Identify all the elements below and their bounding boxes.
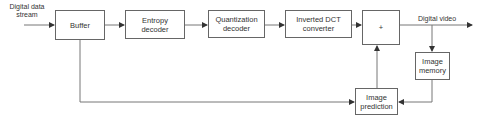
memory-label-line2: memory — [419, 66, 446, 75]
quant-label-line2: decoder — [215, 24, 257, 33]
input-label: Digital data stream — [4, 3, 50, 19]
entropy-label-line2: decoder — [141, 25, 168, 34]
buffer-label: Buffer — [70, 21, 90, 30]
memory-label-line1: Image — [419, 57, 446, 66]
prediction-label-line1: Image — [360, 93, 393, 102]
output-label: Digital video — [418, 15, 456, 23]
idct-label-line2: converter — [296, 24, 341, 33]
input-label-line2: stream — [4, 11, 50, 19]
prediction-label-line2: prediction — [360, 102, 393, 111]
input-label-line1: Digital data — [4, 3, 50, 11]
inverted-dct-block: Inverted DCT converter — [285, 10, 352, 38]
buffer-block: Buffer — [55, 10, 105, 40]
quant-label-line1: Quantization — [215, 15, 257, 24]
entropy-decoder-block: Entropy decoder — [125, 10, 185, 39]
adder-label: + — [379, 23, 383, 32]
idct-label-line1: Inverted DCT — [296, 15, 341, 24]
quantization-decoder-block: Quantization decoder — [208, 10, 265, 38]
image-memory-block: Image memory — [415, 52, 450, 80]
entropy-label-line1: Entropy — [141, 16, 168, 25]
image-prediction-block: Image prediction — [355, 88, 398, 115]
adder-block: + — [362, 10, 400, 45]
